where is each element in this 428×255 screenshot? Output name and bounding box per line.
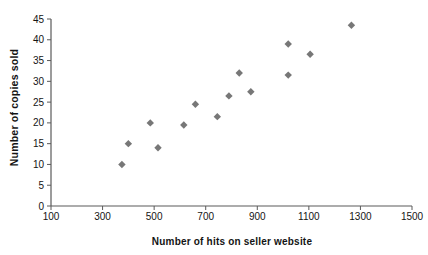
- data-point-diamond: [118, 161, 125, 168]
- scatter-chart-figure: 1003005007009001100130015000510152025303…: [0, 0, 428, 255]
- y-tick-label: 10: [33, 159, 45, 170]
- x-tick-label: 500: [146, 211, 163, 222]
- x-tick-label: 300: [94, 211, 111, 222]
- data-point-diamond: [154, 144, 161, 151]
- y-tick-label: 20: [33, 117, 45, 128]
- data-point-diamond: [348, 22, 355, 29]
- x-axis-title: Number of hits on seller website: [122, 236, 342, 248]
- data-point-diamond: [236, 69, 243, 76]
- data-point-diamond: [306, 51, 313, 58]
- x-tick-label: 1500: [401, 211, 424, 222]
- data-point-diamond: [247, 88, 254, 95]
- x-tick-label: 1300: [349, 211, 372, 222]
- y-tick-label: 25: [33, 97, 45, 108]
- y-tick-label: 45: [33, 14, 45, 25]
- data-point-diamond: [225, 92, 232, 99]
- y-tick-label: 30: [33, 76, 45, 87]
- y-axis-title: Number of copies sold: [8, 8, 21, 208]
- data-point-diamond: [125, 140, 132, 147]
- y-tick-label: 5: [38, 180, 44, 191]
- data-point-diamond: [180, 121, 187, 128]
- x-tick-label: 700: [197, 211, 214, 222]
- y-tick-label: 35: [33, 55, 45, 66]
- x-tick-label: 900: [249, 211, 266, 222]
- y-tick-label: 40: [33, 34, 45, 45]
- data-point-diamond: [285, 71, 292, 78]
- plot-area: 1003005007009001100130015000510152025303…: [0, 0, 428, 255]
- x-tick-label: 100: [43, 211, 60, 222]
- data-point-diamond: [285, 40, 292, 47]
- data-point-diamond: [214, 113, 221, 120]
- data-point-diamond: [192, 100, 199, 107]
- y-tick-label: 0: [38, 201, 44, 212]
- x-tick-label: 1100: [298, 211, 320, 222]
- y-tick-label: 15: [33, 138, 45, 149]
- data-point-diamond: [147, 119, 154, 126]
